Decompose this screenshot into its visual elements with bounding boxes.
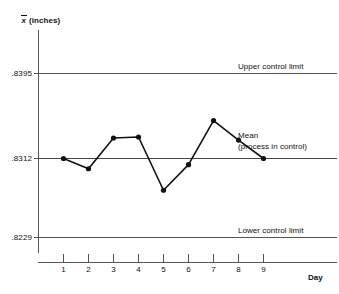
x-tick-label-7: 7 (207, 265, 221, 274)
lower-control-limit-label: Lower control limit (238, 225, 303, 236)
x-tick-label-3: 3 (107, 265, 121, 274)
y-tick-label-lower: .8229 (0, 233, 32, 242)
data-point-markers (61, 118, 266, 193)
mean-label: Mean(process in control) (238, 130, 307, 152)
mean-label-line1: Mean (238, 131, 258, 140)
x-tick-label-8: 8 (232, 265, 246, 274)
mean-label-line2: (process in control) (238, 141, 307, 152)
x-tick-label-9: 9 (257, 265, 271, 274)
data-point-day-6 (186, 162, 191, 167)
y-tick-label-middle: .8312 (0, 154, 32, 163)
y-axis-title-symbol: x (21, 16, 27, 25)
data-point-day-7 (211, 118, 216, 123)
x-tick-label-5: 5 (157, 265, 171, 274)
upper-control-limit-label: Upper control limit (238, 61, 303, 72)
x-tick-label-1: 1 (57, 265, 71, 274)
y-tick-label-upper: .8395 (0, 69, 32, 78)
data-point-day-1 (61, 156, 66, 161)
data-point-day-5 (161, 188, 166, 193)
data-point-day-3 (111, 135, 116, 140)
y-axis-title: x (inches) (21, 16, 60, 25)
x-tick-label-4: 4 (132, 265, 146, 274)
x-tick-marks (64, 254, 264, 262)
data-point-day-4 (136, 134, 141, 139)
x-axis-title: Day (308, 273, 323, 282)
control-chart: x (inches) .8395 .8312 .8229 1 2 3 4 5 6… (0, 0, 339, 294)
x-tick-label-6: 6 (182, 265, 196, 274)
y-axis-title-units: (inches) (29, 16, 60, 25)
data-series-line (64, 121, 264, 191)
data-point-day-9 (261, 156, 266, 161)
x-tick-label-2: 2 (82, 265, 96, 274)
data-point-day-2 (86, 166, 91, 171)
